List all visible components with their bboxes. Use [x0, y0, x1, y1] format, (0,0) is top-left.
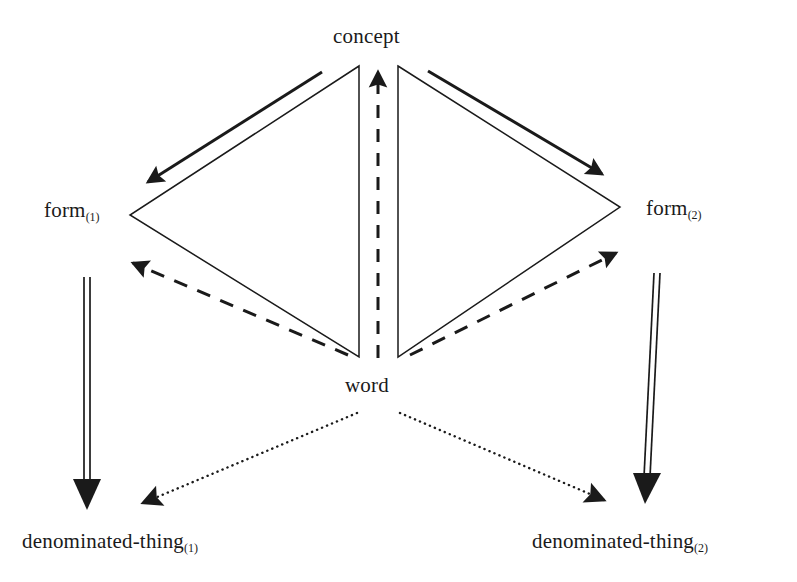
edge-triangle-right [398, 66, 620, 357]
node-text-form-1: form [44, 198, 86, 222]
node-text-denominated-thing-2: denominated-thing [532, 529, 694, 553]
edge-triangle-left [130, 66, 359, 357]
node-text-word: word [345, 373, 389, 397]
diagram-edges [0, 0, 797, 582]
edge-word-to-form2 [410, 253, 616, 355]
edge-word-to-dt2 [400, 413, 604, 500]
node-label-denominated-thing-1: denominated-thing(1) [22, 531, 198, 552]
edge-word-to-dt1 [143, 413, 357, 503]
node-text-denominated-thing-1: denominated-thing [22, 529, 184, 553]
node-subscript-denominated-thing-1: (1) [184, 541, 198, 555]
node-subscript-form-2: (2) [688, 208, 702, 222]
edge-concept-to-form2 [428, 71, 602, 174]
edge-word-to-form1 [133, 263, 348, 355]
edge-form1-to-dt1 [73, 277, 101, 510]
node-label-word: word [345, 375, 389, 396]
node-label-form-2: form(2) [646, 198, 702, 219]
node-label-concept: concept [333, 26, 400, 47]
node-text-form-2: form [646, 196, 688, 220]
node-label-denominated-thing-2: denominated-thing(2) [532, 531, 708, 552]
edge-concept-to-form1 [148, 72, 322, 182]
diagram-canvas: concept form(1) form(2) word denominated… [0, 0, 797, 582]
node-label-form-1: form(1) [44, 200, 100, 221]
node-subscript-form-1: (1) [86, 210, 100, 224]
node-text-concept: concept [333, 24, 400, 48]
node-subscript-denominated-thing-2: (2) [694, 541, 708, 555]
edge-form2-to-dt2 [633, 273, 661, 504]
